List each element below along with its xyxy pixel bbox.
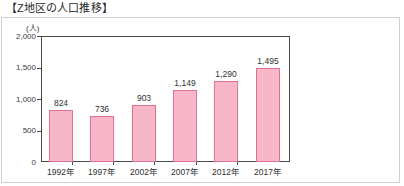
y-axis-tick-label-2000: 2,000 <box>2 33 36 41</box>
x-axis-label-1992: 1992年 <box>41 167 81 177</box>
bar-value-1992: 824 <box>41 99 81 108</box>
y-axis-tick-label-1500: 1,500 <box>2 64 36 72</box>
bar-1992 <box>49 110 73 162</box>
x-axis-label-2017: 2017年 <box>248 167 288 177</box>
bar-value-1997: 736 <box>82 105 122 114</box>
x-axis-tick-mark <box>72 162 73 165</box>
x-axis-label-1997: 1997年 <box>82 167 122 177</box>
bar-value-2017: 1,495 <box>248 57 288 66</box>
x-axis-label-2012: 2012年 <box>206 167 246 177</box>
y-axis-tick-label-1000: 1,000 <box>2 96 36 104</box>
x-axis-tick-mark <box>196 162 197 165</box>
bar-value-2002: 903 <box>124 94 164 103</box>
x-axis-tick-mark <box>113 162 114 165</box>
bar-value-2012: 1,290 <box>206 70 246 79</box>
bar-2012 <box>214 81 238 162</box>
chart-figure: 【Z地区の人口推移】 (人) 2,000 1,500 1,000 500 0 8… <box>0 0 404 186</box>
bar-2007 <box>173 90 197 162</box>
x-axis-tick-mark <box>154 162 155 165</box>
y-axis-tick-mark-2000 <box>37 36 41 37</box>
x-axis-tick-mark <box>237 162 238 165</box>
bar-value-2007: 1,149 <box>165 79 205 88</box>
y-axis-tick-mark-500 <box>37 131 41 132</box>
y-axis-tick-mark-1500 <box>37 68 41 69</box>
bar-1997 <box>90 116 114 162</box>
x-axis-label-2002: 2002年 <box>124 167 164 177</box>
page-title: 【Z地区の人口推移】 <box>6 1 113 15</box>
y-axis-tick-label-0: 0 <box>2 159 36 167</box>
x-axis-label-2007: 2007年 <box>165 167 205 177</box>
bar-2017 <box>256 68 280 162</box>
bar-2002 <box>132 105 156 162</box>
y-axis-tick-label-500: 500 <box>2 127 36 135</box>
